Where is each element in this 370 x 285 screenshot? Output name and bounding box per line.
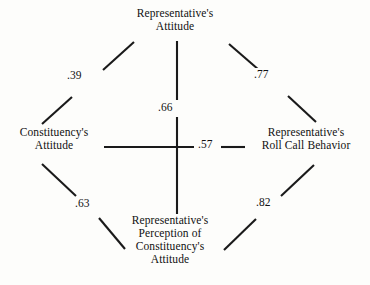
edge-line-39-upper xyxy=(103,42,134,70)
edge-line-77-upper xyxy=(229,44,259,70)
edge-label-representative-attitude-to-roll-call: .77 xyxy=(253,68,269,80)
edge-label-constituency-to-representative-attitude: .39 xyxy=(66,69,82,81)
node-label-line: Representative's xyxy=(108,7,242,20)
node-roll-call-behavior[interactable]: Representative's Roll Call Behavior xyxy=(243,126,369,152)
edge-label-constituency-to-roll-call: .57 xyxy=(197,138,213,150)
node-label-line: Roll Call Behavior xyxy=(243,139,369,152)
edge-label-representative-attitude-to-perception: .66 xyxy=(157,101,173,113)
node-label-line: Representative's xyxy=(103,214,237,227)
edge-line-63-upper xyxy=(42,164,76,196)
node-label-line: Attitude xyxy=(2,139,106,152)
node-label-line: Constituency's xyxy=(103,240,237,253)
node-constituency-attitude[interactable]: Constituency's Attitude xyxy=(2,126,106,152)
path-diagram: Representative's Attitude Constituency's… xyxy=(0,0,370,285)
edge-label-constituency-to-perception: .63 xyxy=(74,197,90,209)
node-representative-perception[interactable]: Representative's Perception of Constitue… xyxy=(103,214,237,266)
edge-line-39-lower xyxy=(42,97,72,124)
node-label-line: Attitude xyxy=(108,20,242,33)
node-label-line: Constituency's xyxy=(2,126,106,139)
edge-line-77-lower xyxy=(288,96,316,122)
node-label-line: Representative's xyxy=(243,126,369,139)
edge-line-82-upper xyxy=(281,165,314,196)
node-representative-attitude[interactable]: Representative's Attitude xyxy=(108,7,242,33)
edge-label-perception-to-roll-call: .82 xyxy=(255,196,271,208)
node-label-line: Attitude xyxy=(103,253,237,266)
node-label-line: Perception of xyxy=(103,227,237,240)
